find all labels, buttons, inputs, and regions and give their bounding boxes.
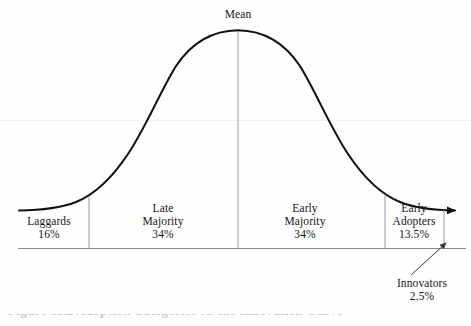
segment-percent-late-majority: 34% <box>133 228 193 241</box>
figure-root: Mean Laggards 16% Late Majority 34% Earl… <box>0 0 471 326</box>
segment-label-early-adopters-line2: Adopters <box>383 215 445 228</box>
segment-label-early-majority-line1: Early <box>275 202 335 215</box>
bell-curve-path <box>19 30 455 210</box>
segment-percent-early-majority: 34% <box>275 228 335 241</box>
segment-percent-early-adopters: 13.5% <box>383 228 445 241</box>
segment-label-early-majority-line2: Majority <box>275 215 335 228</box>
annotation-label-innovators: Innovators <box>379 277 465 290</box>
segment-label-laggards: Laggards <box>14 215 84 228</box>
innovators-leader-line <box>411 243 446 275</box>
figure-caption-clipped: Figure 11.2 Adoption Categories on the I… <box>0 314 471 326</box>
segment-label-late-majority-line1: Late <box>133 202 193 215</box>
annotation-percent-innovators: 2.5% <box>379 290 465 303</box>
figure-caption-text: Figure 11.2 Adoption Categories on the I… <box>8 314 343 319</box>
segment-label-early-adopters-line1: Early <box>383 202 445 215</box>
segment-percent-laggards: 16% <box>14 228 84 241</box>
segment-label-late-majority-line2: Majority <box>133 215 193 228</box>
mean-label: Mean <box>208 8 268 21</box>
